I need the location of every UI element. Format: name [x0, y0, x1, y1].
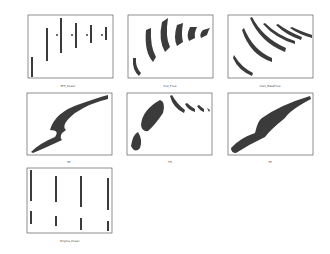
panel-2: Pod_Flow [128, 15, 213, 88]
scatter-grid: SFP_Power Pod_Flow Inlet_MassFlow EP [0, 0, 330, 254]
panel-6: TE [228, 93, 313, 164]
x-label: FS [168, 160, 172, 164]
panel-1: SFP_Power [28, 15, 113, 88]
x-label: SFP_Power [61, 84, 77, 88]
panel-3: Inlet_MassFlow [228, 15, 313, 88]
panel-4: EP [27, 93, 112, 164]
x-label: EP [67, 160, 71, 164]
x-label: TE [267, 160, 272, 164]
panel-7: Engine_Power [27, 168, 112, 243]
panel-5: FS [127, 93, 212, 164]
x-label: Inlet_MassFlow [259, 84, 281, 88]
x-label: Pod_Flow [164, 84, 178, 88]
x-label: Engine_Power [60, 239, 80, 243]
